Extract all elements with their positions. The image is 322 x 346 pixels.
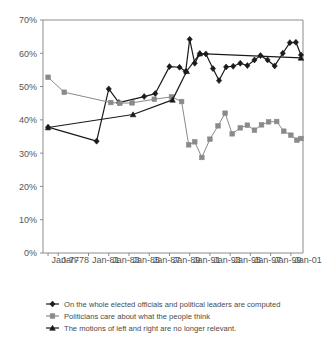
- data-point-marker: [118, 101, 123, 106]
- data-point-marker: [142, 94, 147, 100]
- data-point-marker: [186, 143, 191, 148]
- y-tick-label: 60%: [19, 49, 37, 59]
- data-point-marker: [192, 140, 197, 145]
- y-tick-label: 20%: [19, 182, 37, 192]
- data-point-marker: [266, 120, 271, 125]
- data-point-marker: [274, 119, 279, 124]
- data-point-marker: [167, 64, 172, 70]
- y-tick-label: 0%: [24, 248, 37, 258]
- y-tick-label: 10%: [19, 215, 37, 225]
- y-tick-label: 50%: [19, 82, 37, 92]
- data-point-marker: [94, 138, 99, 144]
- legend-item[interactable]: Politicians care about what the people t…: [46, 312, 210, 321]
- y-tick-label: 30%: [19, 149, 37, 159]
- series-2: [46, 75, 304, 160]
- data-point-marker: [187, 36, 192, 42]
- series-3: [45, 51, 304, 130]
- chart-container: 0%10%20%30%40%50%60%70%Jan-77Jan-78Jan-8…: [0, 0, 322, 346]
- data-point-marker: [216, 124, 221, 129]
- data-point-marker: [208, 137, 213, 142]
- data-point-marker: [50, 301, 55, 307]
- data-point-marker: [224, 64, 229, 70]
- data-point-marker: [179, 99, 184, 104]
- data-point-marker: [299, 136, 304, 141]
- data-point-marker: [293, 39, 298, 45]
- data-point-marker: [281, 129, 286, 134]
- data-point-marker: [50, 314, 55, 319]
- data-point-marker: [130, 101, 135, 106]
- x-tick-label: Jan-01: [294, 255, 322, 265]
- data-point-marker: [108, 100, 113, 105]
- x-tick-label: Jan-78: [62, 255, 90, 265]
- line-chart: 0%10%20%30%40%50%60%70%Jan-77Jan-78Jan-8…: [0, 0, 322, 346]
- data-point-marker: [230, 132, 235, 137]
- data-point-marker: [200, 155, 205, 160]
- data-point-marker: [245, 123, 250, 128]
- data-point-marker: [46, 75, 51, 80]
- legend-label: Politicians care about what the people t…: [64, 312, 210, 321]
- data-point-marker: [289, 133, 294, 138]
- y-tick-label: 40%: [19, 115, 37, 125]
- data-point-marker: [210, 66, 215, 72]
- data-point-marker: [223, 111, 228, 116]
- legend-item[interactable]: On the whole elected officials and polit…: [46, 300, 280, 309]
- data-point-marker: [62, 90, 67, 95]
- data-point-marker: [259, 123, 264, 128]
- y-tick-label: 70%: [19, 15, 37, 25]
- data-point-marker: [152, 97, 157, 102]
- data-point-marker: [231, 63, 236, 69]
- legend-label: On the whole elected officials and polit…: [64, 300, 280, 309]
- series-line: [48, 77, 301, 157]
- legend-item[interactable]: The motions of left and right are no lon…: [46, 324, 236, 333]
- series-line: [48, 54, 301, 128]
- data-point-marker: [238, 126, 243, 131]
- legend-label: The motions of left and right are no lon…: [64, 324, 236, 333]
- series-1: [45, 36, 303, 144]
- data-point-marker: [177, 64, 182, 70]
- data-point-marker: [238, 60, 243, 66]
- data-point-marker: [153, 91, 158, 97]
- data-point-marker: [216, 78, 221, 84]
- data-point-marker: [252, 128, 257, 133]
